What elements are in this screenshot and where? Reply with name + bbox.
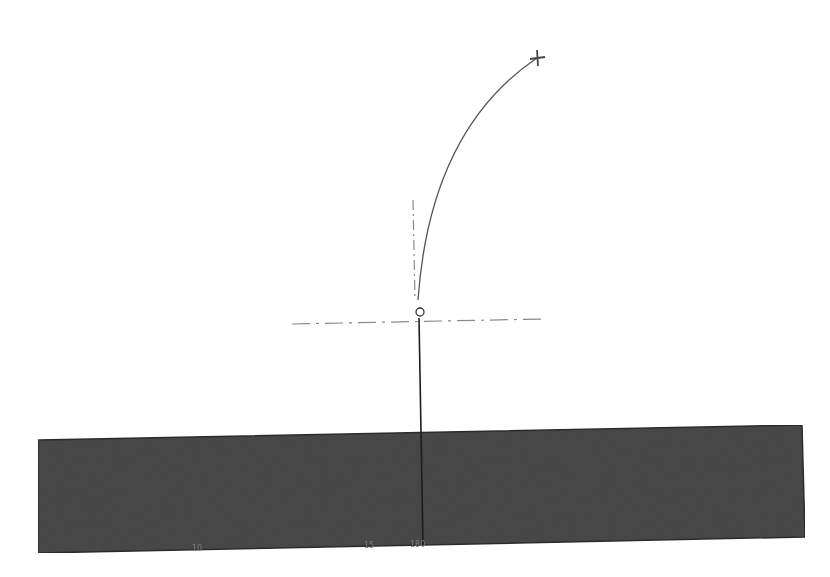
end-point-cross-icon (530, 50, 545, 66)
bottom-label-1: 10 (192, 544, 202, 553)
horizontal-centerline (292, 319, 543, 324)
bottom-label-3: 180 (410, 540, 425, 549)
drawing-canvas (0, 0, 830, 577)
bottom-label-2: 15 (364, 541, 374, 550)
pivot-marker-icon (416, 308, 424, 316)
deflection-curve (418, 58, 537, 300)
vertical-centerline (413, 200, 415, 300)
